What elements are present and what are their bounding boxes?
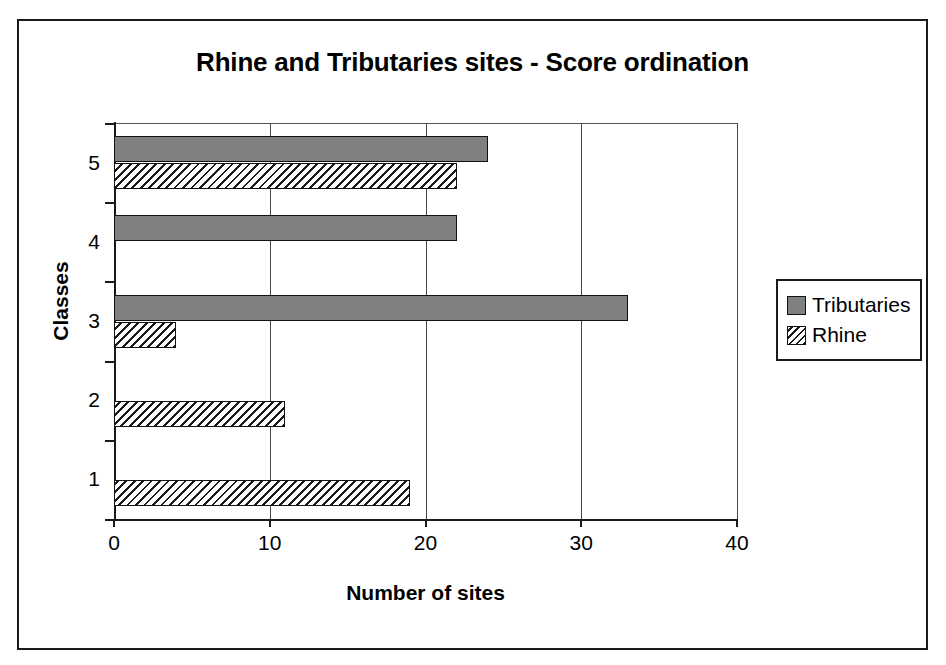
x-axis-tick <box>269 519 271 527</box>
gridline <box>737 123 738 519</box>
x-axis-tick-label: 20 <box>414 531 437 555</box>
y-axis-tick-label: 2 <box>66 388 100 412</box>
plot-area: 010203040 12345 <box>114 123 737 519</box>
legend-swatch-tributaries-icon <box>787 296 806 315</box>
x-axis-title: Number of sites <box>114 581 737 605</box>
chart-frame: Rhine and Tributaries sites - Score ordi… <box>17 19 928 650</box>
x-axis-tick-label: 30 <box>570 531 593 555</box>
x-axis-tick-label: 10 <box>258 531 281 555</box>
bar-rhine-class-2 <box>114 401 285 427</box>
x-axis-tick-label: 0 <box>108 531 120 555</box>
legend-label: Tributaries <box>812 293 910 317</box>
bar-rhine-class-3 <box>114 322 176 348</box>
legend-swatch-rhine-icon <box>787 326 806 345</box>
bar-tributaries-class-3 <box>114 295 628 321</box>
y-axis-tick-label: 5 <box>66 151 100 175</box>
legend: TributariesRhine <box>776 279 922 361</box>
y-axis-tick <box>105 361 114 363</box>
x-axis-tick <box>425 519 427 527</box>
y-axis-tick <box>105 519 114 521</box>
y-axis-tick <box>105 440 114 442</box>
gridline <box>581 123 582 519</box>
legend-label: Rhine <box>812 323 867 347</box>
x-axis-tick <box>736 519 738 527</box>
bar-tributaries-class-4 <box>114 215 457 241</box>
y-axis-tick <box>105 202 114 204</box>
bar-tributaries-class-5 <box>114 136 488 162</box>
x-axis-tick <box>580 519 582 527</box>
y-axis-title: Classes <box>49 221 73 381</box>
legend-item-tributaries[interactable]: Tributaries <box>787 290 910 320</box>
y-axis-tick <box>105 281 114 283</box>
y-axis-tick-label: 1 <box>66 467 100 491</box>
bar-rhine-class-1 <box>114 480 410 506</box>
bar-rhine-class-5 <box>114 163 457 189</box>
chart-title: Rhine and Tributaries sites - Score ordi… <box>19 47 926 78</box>
y-axis-tick <box>105 123 114 125</box>
legend-item-rhine[interactable]: Rhine <box>787 320 910 350</box>
x-axis-tick-label: 40 <box>725 531 748 555</box>
